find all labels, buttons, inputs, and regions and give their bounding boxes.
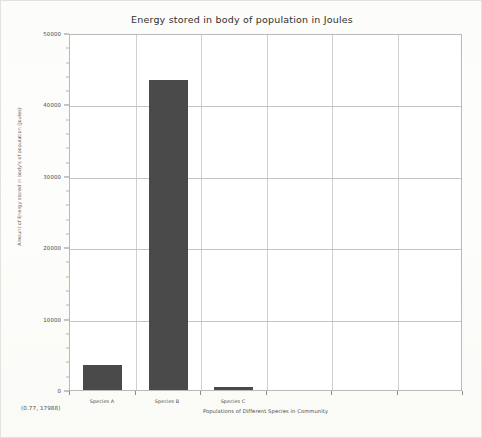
x-tick-mark [331, 391, 332, 395]
y-axis-title: Amount of Energy stored in body's of pop… [17, 97, 22, 257]
x-tick-mark [135, 391, 136, 395]
vertical-gridline [136, 35, 137, 390]
x-tick-mark [69, 391, 70, 395]
bar-species-b [149, 80, 188, 390]
horizontal-gridline [70, 321, 461, 322]
bar-species-a [83, 365, 122, 390]
vertical-gridline [332, 35, 333, 390]
x-tick-mark [200, 391, 201, 395]
x-tick-mark [266, 391, 267, 395]
coordinate-readout: (0.77, 17988) [21, 405, 60, 411]
x-axis-title: Populations of Different Species in Comm… [69, 408, 462, 414]
y-tick-label: 40000 [43, 102, 61, 108]
x-tick-label: Species A [90, 398, 115, 404]
y-tick-label: 20000 [43, 245, 61, 251]
bar-species-c [214, 387, 253, 390]
y-tick-label: 50000 [43, 31, 61, 37]
x-tick-label: Species C [221, 398, 246, 404]
y-tick-label: 0 [57, 388, 61, 394]
vertical-gridline [398, 35, 399, 390]
y-tick-label: 30000 [43, 174, 61, 180]
chart-title: Energy stored in body of population in J… [1, 14, 482, 25]
horizontal-gridline [70, 178, 461, 179]
horizontal-gridline [70, 249, 461, 250]
horizontal-gridline [70, 106, 461, 107]
x-tick-mark [397, 391, 398, 395]
plot-area [69, 34, 462, 391]
vertical-gridline [267, 35, 268, 390]
vertical-gridline [201, 35, 202, 390]
x-tick-mark [462, 391, 463, 395]
y-axis: Amount of Energy stored in body's of pop… [1, 34, 69, 391]
x-tick-label: Species B [155, 398, 180, 404]
y-tick-label: 10000 [43, 317, 61, 323]
chart-page: Energy stored in body of population in J… [0, 0, 482, 438]
x-axis: Populations of Different Species in Comm… [69, 391, 462, 423]
